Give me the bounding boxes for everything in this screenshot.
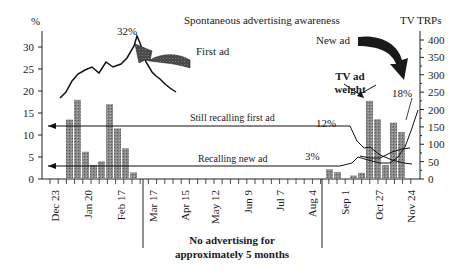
x-tick-label: Jan 20 [82,190,94,219]
trp-bar [350,176,357,179]
left-tick-label: 0 [29,173,35,185]
trp-bar [130,172,137,179]
first-ad-label: First ad [196,45,230,57]
left-tick-label: 30 [23,41,35,53]
x-minor-ticks [50,179,411,184]
trp-bar [334,172,341,179]
first-ad-arrow-icon [135,44,190,68]
trp-bar [114,128,121,179]
right-tick-label: 50 [428,156,440,168]
right-tick-label: 200 [428,104,445,116]
arrow-head-new [48,163,56,169]
trp-bar [82,152,89,179]
x-tick-label: Jun 9 [242,190,254,214]
right-tick-label: 0 [428,173,434,185]
x-tick-label: Feb 17 [115,190,127,221]
left-tick-label: 25 [23,63,35,75]
pct12-label: 12% [316,117,336,129]
x-tick-label: Nov 24 [405,190,417,223]
x-tick-label: Apr 15 [179,190,191,221]
right-tick-label: 400 [428,34,445,46]
trp-bar [382,165,389,179]
left-tick-label: 15 [23,107,35,119]
trp-bar [122,148,129,179]
chart-title: Spontaneous advertising awareness [184,14,340,26]
recalling-new-label: Recalling new ad [198,153,267,164]
x-tick-label: Dec 23 [49,190,61,222]
trp-bar [98,161,105,179]
first-ad-awareness-line [60,36,176,98]
peak-label: 32% [117,25,137,37]
right-tick-label: 350 [428,51,445,63]
still-recalling-label: Still recalling first ad [190,112,275,123]
awareness-chart: Spontaneous advertising awareness % 0510… [0,0,466,275]
trp-bar [106,104,113,179]
left-axis-unit: % [31,15,40,27]
trp-bar [326,169,333,179]
trp-bar [358,173,365,179]
trp-bar [90,165,97,179]
new-ad-arrow-icon [358,36,408,80]
right-tick-label: 250 [428,86,445,98]
x-tick-label: Aug 4 [306,190,318,218]
arrow-head-still [48,123,56,129]
pct18-leader [406,98,412,120]
pct3-label: 3% [305,150,320,162]
trp-bar [366,101,373,179]
right-axis-unit: TV TRPs [400,14,441,26]
left-axis: % 051015202530 [23,15,42,185]
left-tick-label: 20 [23,85,35,97]
new-ad-label: New ad [316,34,350,46]
right-tick-label: 300 [428,69,445,81]
right-tick-label: 100 [428,138,445,150]
x-tick-label: Mar 17 [147,190,159,223]
x-tick-label: Oct 27 [373,190,385,220]
right-tick-label: 150 [428,121,445,133]
tv-ad-weight-label-1: TV ad [335,70,364,82]
gap-annotation-line2: approximately 5 months [175,248,290,260]
trp-bar [74,100,81,179]
x-tick-label: Jul 7 [274,190,286,212]
pct18-label: 18% [392,87,412,99]
trp-bar [66,120,73,179]
gap-annotation-line1: No advertising for [189,234,275,246]
x-tick-labels: Dec 23Jan 20Feb 17Mar 17Apr 15May 12Jun … [49,190,417,224]
x-tick-label: Sep 1 [339,190,351,215]
right-axis: TV TRPs 050100150200250300350400 [400,14,445,185]
left-tick-label: 5 [29,151,35,163]
left-tick-label: 10 [23,129,35,141]
x-tick-label: May 12 [209,190,221,224]
trp-bar [374,119,381,179]
